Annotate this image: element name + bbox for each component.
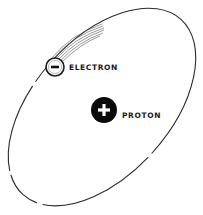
electron-label: ELECTRON (69, 63, 118, 72)
electron-motion-trail (52, 24, 104, 62)
proton-particle (91, 97, 117, 123)
minus-icon (51, 66, 59, 69)
atom-diagram (0, 0, 203, 215)
proton-label: PROTON (122, 111, 161, 120)
electron-particle (46, 58, 64, 76)
